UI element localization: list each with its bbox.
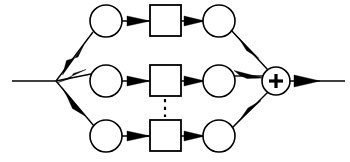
- fanin-middle-arrowhead: [234, 71, 263, 79]
- fanout-top-arrowhead: [63, 46, 84, 76]
- branch-top-output-circle[interactable]: [203, 5, 235, 37]
- branch-bottom-input-circle[interactable]: [90, 120, 122, 152]
- output-signal-line: [290, 75, 345, 87]
- branch-middle-output-circle[interactable]: [203, 65, 235, 97]
- summing-junction[interactable]: [262, 67, 290, 95]
- branch-middle-block-square[interactable]: [150, 65, 181, 96]
- fanout-branch-middle: [56, 70, 91, 83]
- fanin-branch-middle: [234, 71, 264, 79]
- fanin-bottom-arrowhead: [234, 101, 262, 127]
- branch-middle-arrowhead-to-square: [127, 76, 150, 86]
- branch-bottom-block-square[interactable]: [150, 120, 181, 151]
- branch-top-arrowhead-to-square: [127, 16, 150, 26]
- fanout-bottom-arrowhead: [62, 88, 85, 117]
- branch-top-input-circle[interactable]: [90, 5, 122, 37]
- fanout-branch-bottom: [56, 81, 94, 126]
- branch-middle-input-circle[interactable]: [90, 65, 122, 97]
- output-arrowhead: [294, 75, 320, 87]
- branch-bottom: [90, 120, 235, 152]
- fanin-top-arrowhead: [233, 32, 260, 59]
- fanin-branch-bottom: [232, 92, 268, 128]
- branch-top: [90, 5, 235, 37]
- diagram-svg: [0, 0, 350, 162]
- branch-top-arrowhead-to-circle: [184, 16, 205, 26]
- fanin-branch-top: [231, 30, 268, 70]
- branch-bottom-output-circle[interactable]: [203, 120, 235, 152]
- branch-middle-arrowhead-to-circle: [184, 76, 205, 86]
- branch-bottom-arrowhead-to-square: [127, 131, 150, 141]
- branch-middle: [90, 65, 235, 97]
- block-diagram-canvas: [0, 0, 350, 162]
- branch-bottom-arrowhead-to-circle: [184, 131, 205, 141]
- branch-top-block-square[interactable]: [150, 5, 181, 36]
